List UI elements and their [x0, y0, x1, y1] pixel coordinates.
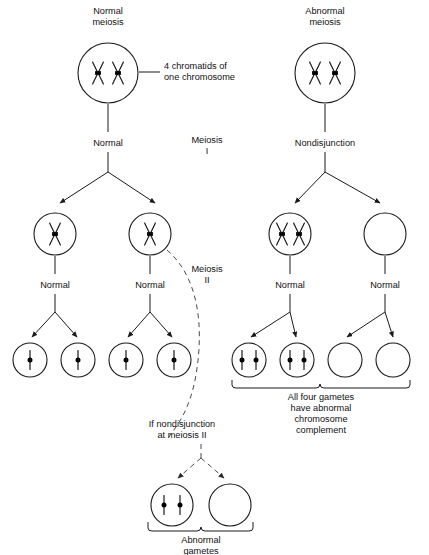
branch-normal-i-left — [60, 172, 108, 203]
meiosis-i-stage-label-line2: I — [206, 146, 209, 156]
branch-mii-3-right — [290, 312, 296, 337]
gamete-cell-6 — [280, 343, 314, 377]
abnormal-caption-line2: have abnormal — [291, 403, 352, 413]
abnormal-caption-line1: All four gametes — [288, 392, 355, 402]
normal-meiosis-title-line1: Normal — [93, 6, 123, 16]
gamete-cell-5 — [232, 343, 266, 377]
if-nondisjunction-label-line2: at meiosis II — [157, 430, 206, 440]
abnormal-gametes-label-line2: gametes — [183, 546, 219, 555]
meiosis-ii-label-2: Normal — [135, 280, 165, 290]
abnormal-meiosis-title-line2: meiosis — [309, 17, 341, 27]
gamete-cell-8-empty — [376, 343, 410, 377]
meiosis-ii-label-4: Normal — [370, 280, 400, 290]
chromatid-annotation-line1: 4 chromatids of — [164, 61, 227, 71]
gamete-cell-3 — [109, 343, 143, 377]
branch-mii-1-right — [55, 312, 77, 337]
nondisjunction-gamete-cell-2-empty — [209, 484, 251, 526]
meiosis-ii-label-1: Normal — [40, 280, 70, 290]
bracket-abnormal-four-gametes — [232, 380, 410, 388]
gamete-cell-2 — [61, 343, 95, 377]
abnormal-meiosis-title-line1: Abnormal — [305, 6, 344, 16]
division-label-normal-i: Normal — [93, 138, 123, 148]
chromatid-annotation-line2: one chromosome — [164, 72, 235, 82]
branch-abnormal-i-left — [295, 172, 325, 203]
gamete-cell-7-empty — [328, 343, 362, 377]
branch-abnormal-i-right — [325, 172, 380, 203]
branch-normal-i-right — [108, 172, 155, 203]
dashed-branch-left — [178, 458, 201, 478]
gamete-cell-1 — [13, 343, 47, 377]
meiosis-ii-label-3: Normal — [275, 280, 305, 290]
meiosis-diagram: Normal meiosis Abnormal meiosis 4 chroma… — [0, 0, 429, 555]
division-label-nondisjunction: Nondisjunction — [295, 138, 355, 148]
abnormal-caption-line4: complement — [296, 425, 346, 435]
branch-mii-1-left — [32, 312, 55, 337]
meiosis-diagram-canvas: Normal meiosis Abnormal meiosis 4 chroma… — [0, 0, 429, 555]
meiosis-ii-stage-label-line1: Meiosis — [191, 264, 223, 274]
branch-mii-4-right — [385, 312, 393, 337]
meiosis-ii-stage-label-line2: II — [204, 275, 209, 285]
branch-mii-2-left — [128, 312, 150, 337]
branch-mii-2-right — [150, 312, 172, 337]
if-nondisjunction-label-line1: If nondisjunction — [149, 419, 215, 429]
meiosis-i-stage-label-line1: Meiosis — [191, 135, 223, 145]
branch-mii-3-left — [251, 312, 290, 337]
gamete-cell-4 — [157, 343, 191, 377]
meiosis-i-cell-abnormal-1 — [269, 213, 311, 255]
abnormal-caption-line3: chromosome — [294, 414, 347, 424]
dashed-branch-right — [201, 458, 224, 478]
meiosis-i-cell-normal-2 — [129, 213, 171, 255]
branch-mii-4-left — [347, 312, 385, 337]
normal-meiosis-title-line2: meiosis — [92, 17, 124, 27]
parent-cell-normal — [78, 43, 138, 103]
meiosis-i-cell-normal-1 — [34, 213, 76, 255]
nondisjunction-gamete-cell-1 — [151, 484, 193, 526]
parent-cell-abnormal — [295, 43, 355, 103]
meiosis-i-cell-abnormal-2-empty — [364, 213, 406, 255]
abnormal-gametes-label-line1: Abnormal — [181, 535, 220, 545]
